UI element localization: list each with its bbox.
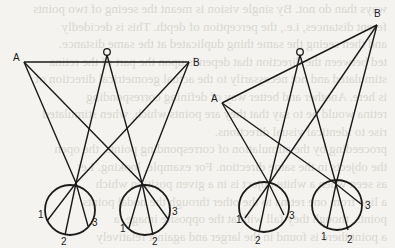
left-label-a: A	[13, 52, 20, 63]
left-left-eye-retina-label-1: 1	[38, 209, 44, 220]
binocular-vision-diagram: AB123123AB123123	[0, 0, 395, 248]
right-right-eye-ray-o	[300, 55, 348, 230]
left-left-eye-ray-o	[65, 55, 107, 235]
left-point-o-marker	[104, 49, 111, 56]
left-right-eye-retina-label-2: 2	[152, 236, 158, 247]
left-left-eye-retina-label-2: 2	[61, 236, 67, 247]
left-left-eye-ray-b	[47, 62, 189, 221]
right-point-o-marker	[297, 49, 304, 56]
right-right-eye-retina-label-2: 2	[347, 234, 353, 245]
right-right-eye-retina-label-3: 3	[365, 200, 371, 211]
right-label-a: A	[211, 93, 218, 104]
left-right-eye-ray-a	[24, 62, 168, 219]
right-right-eye-ray-a	[222, 103, 361, 204]
left-right-eye-retina-label-1: 1	[120, 223, 126, 234]
left-right-eye-ray-o	[107, 55, 153, 235]
right-right-eye-retina-label-1: 1	[321, 231, 327, 242]
left-label-b: B	[193, 57, 200, 68]
left-left-eye-ray-a	[24, 62, 88, 226]
right-label-b: B	[374, 8, 381, 19]
left-right-eye-ray-b	[129, 62, 189, 228]
right-left-eye-retina-label-1: 1	[236, 214, 242, 225]
right-left-eye-retina-label-3: 3	[289, 210, 295, 221]
left-right-eye	[120, 185, 170, 235]
right-left-eye-retina-label-2: 2	[255, 235, 261, 246]
left-left-eye-retina-label-3: 3	[92, 217, 98, 228]
left-right-eye-retina-label-3: 3	[172, 206, 178, 217]
right-fixation-line	[222, 25, 377, 103]
